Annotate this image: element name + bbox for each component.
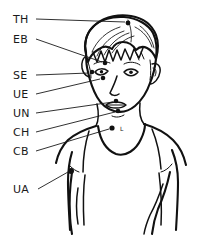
right-armpit: [161, 164, 172, 172]
label-th: TH: [12, 13, 28, 26]
label-ua: UA: [13, 183, 29, 196]
side-of-eye-point: [90, 70, 95, 75]
label-se: SE: [13, 69, 27, 82]
left-arm-inner: [70, 172, 72, 234]
chin-crease: [112, 115, 124, 117]
hair-fringe-tick-2: [141, 52, 144, 59]
tapping-points-group: [68, 21, 130, 174]
leader-ue: [36, 79, 100, 94]
under-eye-point: [101, 76, 106, 81]
neck-right: [140, 103, 144, 124]
tanktop-strap-left: [83, 131, 89, 172]
right-eye-pupil: [129, 70, 133, 74]
label-ch: CH: [13, 126, 29, 139]
chin-point: [116, 109, 121, 114]
leader-th: [36, 19, 125, 22]
eyebrow-point: [103, 61, 108, 66]
leader-ch: [36, 112, 115, 132]
leader-cb: [36, 129, 109, 151]
label-eb: EB: [13, 33, 28, 46]
left-eye-pupil: [100, 70, 103, 73]
label-l-mark: L: [120, 125, 124, 132]
head-group: [82, 15, 160, 111]
collarbone-point: [109, 125, 114, 130]
body-group: [56, 103, 186, 234]
under-nose-point: [114, 99, 119, 104]
leader-eb: [36, 39, 102, 62]
label-cb: CB: [13, 145, 29, 158]
under-arm-point: [68, 168, 74, 174]
leader-un: [36, 102, 113, 113]
nose: [110, 76, 119, 95]
hair-sideburn-right: [150, 60, 151, 80]
top-of-head-point: [126, 21, 131, 26]
face-features-group: [94, 62, 140, 117]
tanktop-strap-right: [152, 129, 161, 169]
label-un: UN: [13, 107, 30, 120]
leader-se: [36, 73, 89, 75]
shoulder-left: [56, 126, 96, 163]
tanktop-side-left: [83, 175, 85, 225]
neck-left: [96, 104, 98, 126]
label-ue: UE: [13, 88, 28, 101]
right-eyebrow: [124, 62, 140, 65]
torso-right-side: [172, 150, 178, 230]
shoulder-right: [144, 124, 186, 165]
left-arm-crease: [77, 188, 79, 224]
eft-tapping-points-figure: TH EB SE UE UN CH CB UA L: [0, 0, 199, 236]
leader-ua: [38, 172, 68, 189]
